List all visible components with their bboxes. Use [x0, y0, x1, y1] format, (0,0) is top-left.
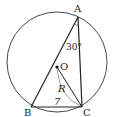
label-O: O — [60, 61, 68, 72]
geometry-diagram: A B C O 30° R 7 — [0, 0, 116, 117]
side-AB — [31, 17, 78, 107]
label-B: B — [24, 107, 31, 117]
side-BC-label: 7 — [54, 96, 61, 107]
center-dot — [55, 65, 58, 68]
radius-label: R — [57, 83, 66, 94]
label-C: C — [83, 107, 91, 117]
label-A: A — [73, 3, 82, 14]
side-AC — [78, 17, 82, 107]
angle-A-label: 30° — [66, 42, 82, 52]
